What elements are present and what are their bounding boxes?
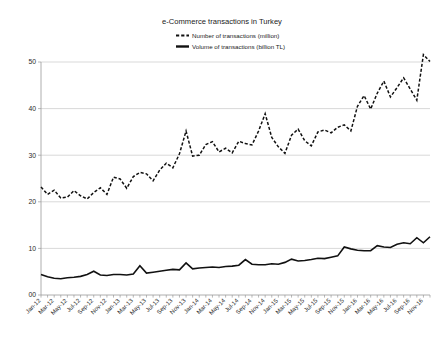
chart-background xyxy=(0,0,444,343)
chart-container: e-Commerce transactions in Turkey Number… xyxy=(0,0,444,343)
y-tick-label-20: 20 xyxy=(28,198,36,205)
legend-label-volume-of-transactions: Volume of transactions (billion TL) xyxy=(192,43,285,50)
y-tick-label-50: 50 xyxy=(28,58,36,65)
y-tick-label-0: 00 xyxy=(28,291,36,298)
ecommerce-transactions-line-chart: e-Commerce transactions in Turkey Number… xyxy=(0,0,444,343)
legend-label-number-of-transactions: Number of transactions (million) xyxy=(192,32,279,39)
chart-title: e-Commerce transactions in Turkey xyxy=(162,17,282,26)
y-tick-label-30: 30 xyxy=(28,152,36,159)
y-tick-label-40: 40 xyxy=(28,105,36,112)
y-tick-label-10: 10 xyxy=(28,245,36,252)
